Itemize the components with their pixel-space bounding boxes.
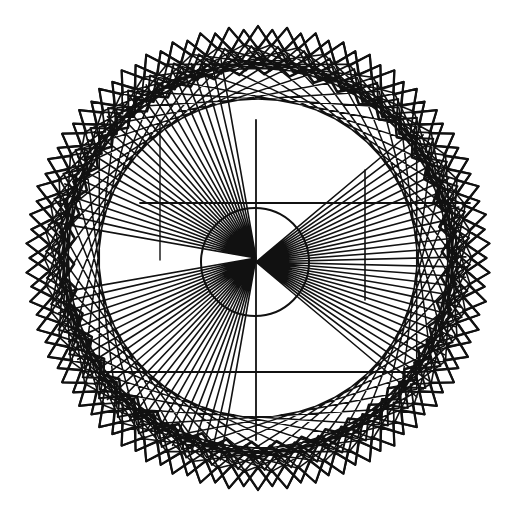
- artwork-canvas: [0, 0, 522, 523]
- string-art-figure: [0, 0, 522, 523]
